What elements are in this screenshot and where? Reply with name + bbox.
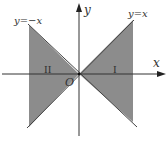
x-axis-arrow-icon bbox=[157, 71, 166, 77]
coordinate-diagram: y x O y=−x y=x II I bbox=[0, 0, 167, 149]
origin-point bbox=[78, 73, 81, 76]
y-axis-arrow-icon bbox=[76, 3, 82, 12]
y-axis-label: y bbox=[83, 3, 91, 17]
x-axis-label: x bbox=[153, 56, 160, 70]
region-label-II: II bbox=[44, 63, 52, 75]
region-I-shade bbox=[79, 20, 133, 122]
line-label-y-eq-x: y=x bbox=[127, 8, 148, 19]
region-label-I: I bbox=[113, 63, 117, 75]
origin-label: O bbox=[65, 76, 74, 89]
line-label-y-eq-neg-x: y=−x bbox=[13, 15, 42, 26]
